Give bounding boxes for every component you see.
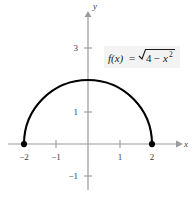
- formula-fx-label: f(x): [108, 52, 124, 65]
- x-tick-label-neg2: −2: [19, 152, 29, 162]
- formula-exponent-two: 2: [169, 50, 173, 59]
- formula-variable-x: x: [162, 52, 168, 64]
- y-tick-label-pos1: 1: [74, 107, 79, 117]
- x-axis-arrowhead: [176, 141, 183, 148]
- formula-radicand-number: 4: [146, 52, 152, 64]
- endpoint-dot-left: [21, 141, 27, 147]
- semicircle-plot: −2 −1 1 2 3 1 −1 x y f(x) = 4 − x 2: [0, 0, 194, 198]
- x-tick-label-pos2: 2: [150, 152, 155, 162]
- formula-equals-sign: =: [129, 52, 135, 64]
- figure-container: −2 −1 1 2 3 1 −1 x y f(x) = 4 − x 2: [0, 0, 194, 198]
- x-axis-label: x: [183, 139, 188, 149]
- y-tick-label-pos3: 3: [74, 43, 79, 53]
- y-axis-arrowhead: [85, 11, 92, 17]
- y-axis-label: y: [92, 1, 97, 11]
- formula-minus-sign: −: [154, 52, 160, 64]
- endpoint-dot-right: [149, 141, 155, 147]
- y-tick-label-neg1: −1: [68, 171, 78, 181]
- x-tick-label-neg1: −1: [51, 152, 61, 162]
- x-tick-label-pos1: 1: [118, 152, 123, 162]
